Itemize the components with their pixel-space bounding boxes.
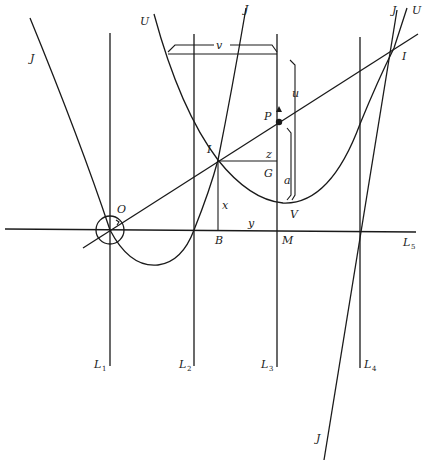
bracket-a [287,128,291,200]
label-u-segment: u [292,87,299,100]
bracket-v-right [230,45,277,52]
label-b: B [214,234,223,247]
label-u-top: U [140,15,150,28]
label-l1: L 1 [93,358,106,373]
svg-text:L: L [93,358,101,371]
label-i-left: I [206,143,212,156]
svg-text:L: L [363,358,371,371]
bracket-v-left [168,45,214,52]
label-l5: L 5 [402,236,415,251]
label-j-right: J [390,4,397,17]
label-p: P [263,110,272,123]
label-y-segment: y [247,217,255,230]
point-p [276,119,282,125]
svg-text:L: L [402,236,410,249]
svg-text:5: 5 [411,243,415,251]
label-x-segment: x [222,199,229,212]
angle-arrow-icon [116,220,119,225]
svg-text:2: 2 [187,365,191,373]
curve-j-left [30,8,246,265]
label-j-mid: J [242,3,249,16]
line-oi [83,34,418,248]
line-l5 [5,229,416,232]
label-m: M [281,234,294,247]
label-i-right: I [401,50,407,63]
geometric-diagram: J U J J U I O I P G V B M v u z a x y L … [0,0,424,464]
label-j-bottom: J [314,432,321,445]
curve-u [154,8,407,203]
label-a-segment: a [284,174,291,187]
label-j-left: J [28,52,35,65]
svg-text:L: L [178,358,186,371]
label-v: V [290,208,299,221]
label-v-segment: v [216,39,223,52]
svg-text:L: L [260,358,268,371]
svg-text:1: 1 [102,365,106,373]
label-l2: L 2 [178,358,191,373]
label-l4: L 4 [363,358,377,373]
svg-text:3: 3 [269,365,273,373]
label-o: O [117,203,126,216]
label-g: G [264,167,273,180]
label-z-segment: z [265,148,272,161]
label-l3: L 3 [260,358,273,373]
svg-text:4: 4 [372,365,377,373]
label-u-right: U [412,4,422,17]
